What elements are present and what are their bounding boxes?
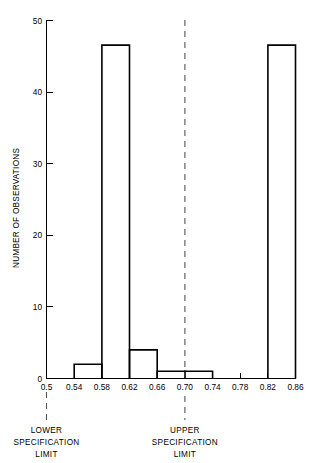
histogram-bar <box>157 371 185 378</box>
x-axis-tick-labels: 0.5 0.54 0.58 0.62 0.66 0.70 0.74 0.78 0… <box>41 382 304 392</box>
y-tick-label-30: 30 <box>33 159 43 169</box>
lower-spec-line-3: LIMIT <box>35 450 57 459</box>
lower-spec-line-2: SPECIFICATION <box>13 438 79 447</box>
x-tick-label-2: 0.58 <box>94 382 111 392</box>
x-axis-ticks <box>47 373 296 379</box>
x-tick-label-1: 0.54 <box>66 382 83 392</box>
y-axis-title: NUMBER OF OBSERVATIONS <box>12 148 21 268</box>
x-tick-label-9: 0.86 <box>287 382 304 392</box>
y-axis-tick-labels: 50 40 30 20 10 0 <box>33 16 43 384</box>
axes <box>47 20 296 379</box>
y-tick-label-40: 40 <box>33 87 43 97</box>
y-axis-ticks <box>47 21 53 307</box>
x-tick-label-0: 0.5 <box>41 382 53 392</box>
lower-spec-line-1: LOWER <box>31 426 63 435</box>
x-tick-label-7: 0.78 <box>232 382 249 392</box>
histogram-bar <box>268 45 296 378</box>
upper-spec-line-2: SPECIFICATION <box>152 438 218 447</box>
upper-spec-line-1: UPPER <box>170 426 200 435</box>
specification-limit-lines <box>47 20 185 420</box>
x-tick-label-4: 0.66 <box>149 382 166 392</box>
y-tick-label-10: 10 <box>33 302 43 312</box>
x-tick-label-8: 0.82 <box>260 382 277 392</box>
histogram-bar <box>74 364 102 378</box>
y-tick-label-20: 20 <box>33 230 43 240</box>
x-tick-label-3: 0.62 <box>121 382 138 392</box>
y-tick-label-50: 50 <box>33 16 43 26</box>
lower-specification-limit-annotation: LOWER SPECIFICATION LIMIT <box>13 426 79 459</box>
histogram-bar <box>102 45 130 378</box>
x-tick-label-5: 0.70 <box>177 382 194 392</box>
upper-spec-line-3: LIMIT <box>174 450 196 459</box>
chart-canvas: 50 40 30 20 10 0 NUMBER OF OBSERVATIONS … <box>0 0 310 463</box>
upper-specification-limit-annotation: UPPER SPECIFICATION LIMIT <box>152 426 218 459</box>
histogram-chart: 50 40 30 20 10 0 NUMBER OF OBSERVATIONS … <box>0 0 310 463</box>
histogram-bar <box>185 371 213 378</box>
histogram-bar <box>130 350 158 379</box>
x-tick-label-6: 0.74 <box>205 382 222 392</box>
